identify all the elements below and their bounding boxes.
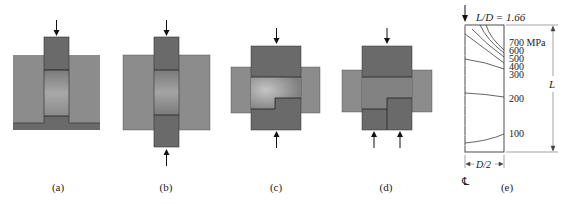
contour-label-100: 100 [509, 128, 524, 139]
panel-e: L/D = 1.66 700 MPa 600 500 400 300 200 1… [450, 0, 572, 204]
caption-d: (d) [371, 181, 401, 193]
panel-b: (b) [110, 0, 220, 204]
contour-label-300: 300 [509, 69, 524, 80]
arrow-down-icon [164, 20, 170, 36]
panel-d: (d) [330, 0, 440, 204]
caption-e: (e) [492, 181, 522, 193]
arrow-up-icon [371, 131, 377, 148]
arrow-down-icon [462, 5, 468, 22]
centerline-symbol: ℄ [461, 175, 469, 187]
pressure-contour-plot: L/D = 1.66 700 MPa 600 500 400 300 200 1… [450, 0, 572, 204]
ratio-label: L/D = 1.66 [475, 11, 526, 23]
caption-b: (b) [151, 181, 181, 193]
arrow-up-icon [164, 149, 170, 166]
closed-die-pressing-diagram [0, 0, 120, 204]
caption-a: (a) [43, 181, 73, 193]
width-label: D/2 [475, 159, 491, 170]
arrow-down-icon [274, 28, 280, 44]
panel-a: (a) [0, 0, 120, 204]
arrow-down-icon [54, 20, 60, 36]
stepped-part-pressing-diagram [220, 0, 330, 204]
caption-c: (c) [261, 181, 291, 193]
double-action-pressing-diagram [110, 0, 220, 204]
arrow-up-icon [274, 131, 280, 148]
multi-punch-pressing-diagram [330, 0, 440, 204]
arrow-up-icon [397, 131, 403, 148]
arrow-down-icon [384, 28, 390, 44]
length-label: L [548, 78, 555, 90]
panel-c: (c) [220, 0, 330, 204]
contour-label-200: 200 [509, 93, 524, 104]
